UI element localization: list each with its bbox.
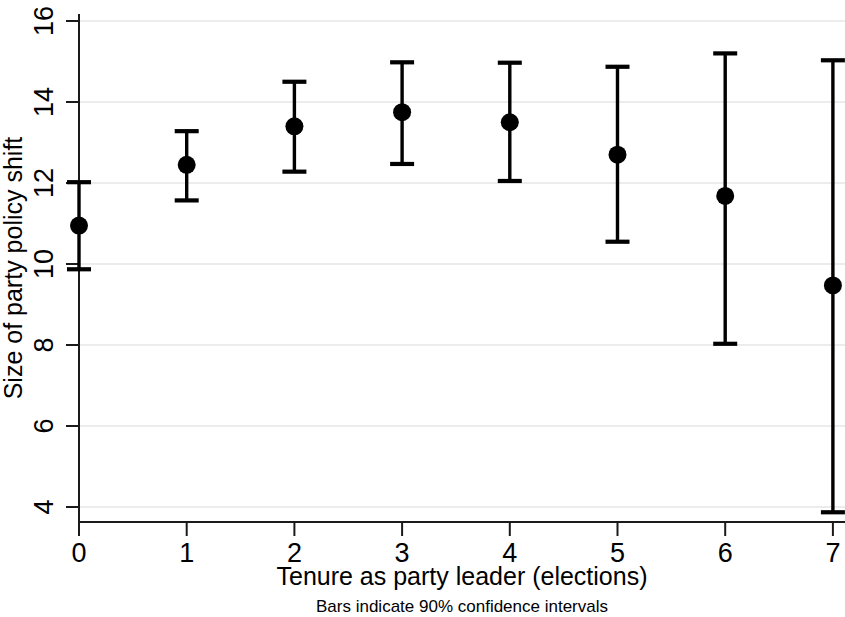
- y-axis-title: Size of party policy shift: [0, 137, 27, 400]
- y-axis-ticks: 46810121416: [29, 6, 79, 515]
- x-axis-title: Tenure as party leader (elections): [276, 562, 647, 590]
- y-tick-label: 16: [29, 6, 59, 36]
- data-series-policy-shift: [67, 53, 845, 512]
- y-tick-label: 6: [29, 418, 59, 433]
- y-tick-label: 14: [29, 87, 59, 117]
- y-tick-label: 4: [29, 499, 59, 514]
- axes: [79, 14, 845, 522]
- y-tick-label: 10: [29, 249, 59, 279]
- estimate-marker: [285, 117, 303, 135]
- estimate-marker: [178, 156, 196, 174]
- x-tick-label: 0: [71, 538, 86, 568]
- grid-lines: [79, 21, 845, 507]
- y-tick-label: 12: [29, 168, 59, 198]
- estimate-marker: [393, 103, 411, 121]
- error-bar-chart: 46810121416 01234567 Size of party polic…: [0, 0, 845, 617]
- data-point-group: [175, 131, 199, 200]
- data-point-group: [498, 63, 522, 181]
- estimate-marker: [609, 146, 627, 164]
- data-point-group: [67, 182, 91, 269]
- x-tick-label: 7: [825, 538, 840, 568]
- data-point-group: [390, 62, 414, 164]
- chart-note: Bars indicate 90% confidence intervals: [316, 597, 608, 616]
- estimate-marker: [501, 113, 519, 131]
- x-tick-label: 1: [179, 538, 194, 568]
- estimate-marker: [70, 217, 88, 235]
- data-point-group: [821, 60, 845, 512]
- y-tick-label: 8: [29, 337, 59, 352]
- estimate-marker: [824, 276, 842, 294]
- estimate-marker: [716, 187, 734, 205]
- data-point-group: [282, 82, 306, 172]
- x-tick-label: 6: [718, 538, 733, 568]
- data-point-group: [606, 67, 630, 242]
- chart-figure: 46810121416 01234567 Size of party polic…: [0, 0, 845, 617]
- data-point-group: [713, 53, 737, 343]
